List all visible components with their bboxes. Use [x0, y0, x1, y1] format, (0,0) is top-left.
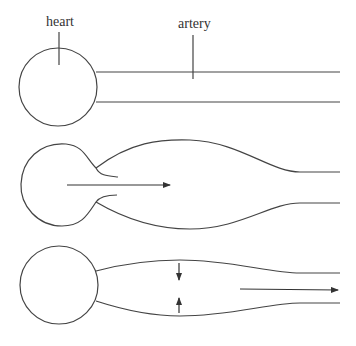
heart-circle-relaxed [20, 246, 98, 324]
artery-recoil-bottom-wall [96, 301, 340, 316]
heart-label: heart [46, 15, 74, 29]
heart-valve-bottom [96, 195, 117, 202]
heart-circle [19, 48, 97, 126]
artery-recoil-top-wall [96, 260, 340, 273]
panel-recoil [20, 246, 340, 324]
artery-expanded-bottom-wall [96, 202, 340, 229]
blood-flow-arrow-onward [240, 289, 338, 290]
artery-label: artery [178, 17, 211, 31]
panel-resting [19, 32, 340, 126]
heart-valve-top [96, 168, 118, 177]
artery-expanded-top-wall [96, 140, 340, 172]
diagram-canvas [0, 0, 356, 346]
panel-ejection [21, 140, 340, 229]
